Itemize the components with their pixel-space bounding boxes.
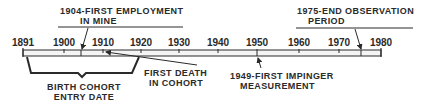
annotation-end-observation: 1975-END OBSERVATION PERIOD: [296, 6, 414, 49]
first-employment-arrow: [82, 28, 88, 49]
timeline-bar-rect: [23, 50, 381, 56]
birth-cohort-line1: BIRTH COHORT: [47, 82, 121, 92]
timeline-diagram: 1904-FIRST EMPLOYMENT IN MINE 1975-END O…: [0, 0, 434, 106]
annotation-first-death: FIRST DEATH IN COHORT: [106, 52, 207, 88]
first-death-line1: FIRST DEATH: [144, 68, 207, 78]
first-impinger-arrow: [258, 58, 261, 68]
brace-icon: [27, 57, 139, 77]
end-observation-line1: 1975-END OBSERVATION: [297, 6, 414, 16]
tick-label-1960: 1960: [288, 37, 311, 48]
tick-label-1900: 1900: [53, 37, 76, 48]
first-employment-line1: 1904-FIRST EMPLOYMENT: [60, 6, 184, 16]
end-observation-line2: PERIOD: [308, 16, 345, 26]
birth-cohort-line2: ENTRY DATE: [54, 92, 114, 102]
first-impinger-line1: 1949-FIRST IMPINGER: [230, 71, 334, 81]
tick-label-1930: 1930: [168, 37, 191, 48]
end-observation-arrow: [355, 29, 361, 49]
tick-label-1980: 1980: [370, 37, 393, 48]
first-death-line2: IN COHORT: [149, 78, 203, 88]
annotation-first-employment: 1904-FIRST EMPLOYMENT IN MINE: [58, 6, 184, 49]
tick-label-1970: 1970: [328, 37, 351, 48]
first-employment-line2: IN MINE: [80, 16, 117, 26]
timeline-bar: [23, 48, 381, 57]
annotation-first-impinger: 1949-FIRST IMPINGER MEASUREMENT: [230, 58, 334, 91]
first-impinger-line2: MEASUREMENT: [240, 81, 315, 91]
tick-label-1891: 1891: [12, 37, 35, 48]
birth-cohort-brace: BIRTH COHORT ENTRY DATE: [27, 57, 139, 102]
tick-label-1920: 1920: [130, 37, 153, 48]
tick-label-1940: 1940: [207, 37, 230, 48]
tick-label-1950: 1950: [246, 37, 269, 48]
tick-label-1910: 1910: [92, 37, 115, 48]
tick-labels: 1891 1900 1910 1920 1930 1940 1950 1960 …: [12, 37, 393, 48]
